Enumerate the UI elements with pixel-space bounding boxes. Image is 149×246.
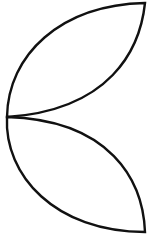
upper-leaf-shape	[7, 3, 145, 117]
lower-leaf-shape	[7, 117, 145, 232]
leaf-diagram	[0, 0, 149, 246]
